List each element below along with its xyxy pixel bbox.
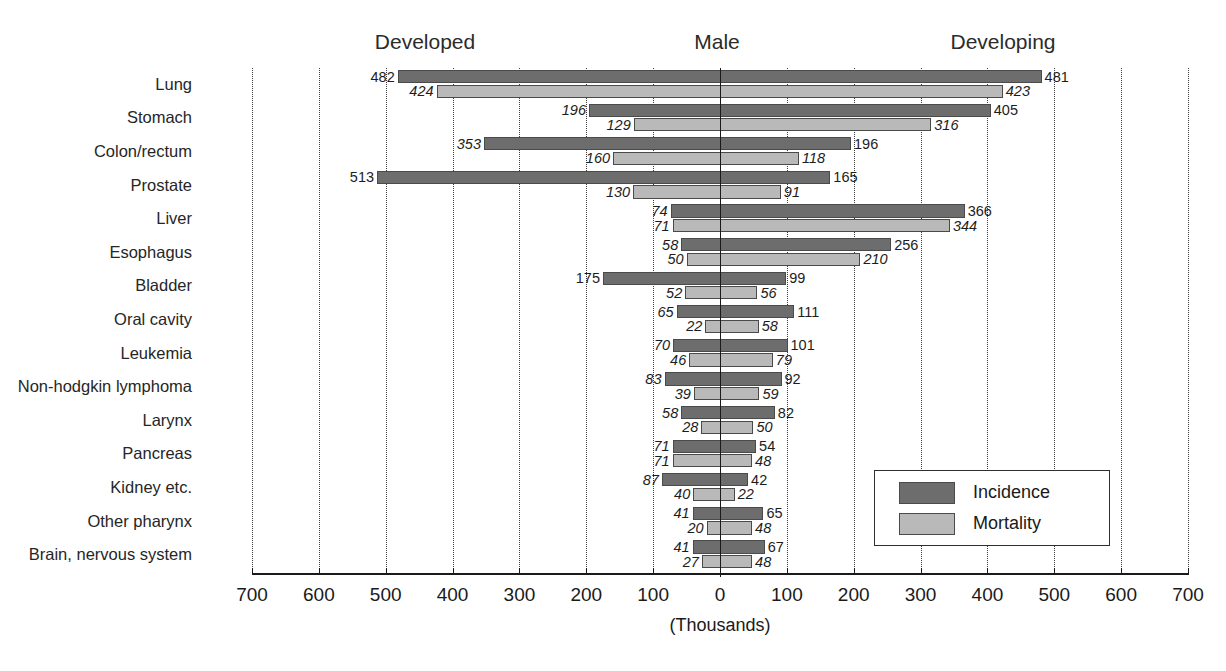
x-axis-tick-label: 300 [504,584,536,606]
value-developing-mortality: 58 [762,318,778,334]
value-developing-incidence: 366 [968,203,992,219]
bar-incidence [673,440,757,453]
value-developing-incidence: 92 [785,371,801,387]
value-developing-incidence: 256 [894,237,918,253]
bar-mortality [707,521,752,534]
category-label-larynx: Larynx [142,410,192,429]
bar-mortality [634,118,932,131]
x-axis-tick-label: 0 [715,584,726,606]
legend-swatch-mortality [899,513,955,535]
value-developing-incidence: 111 [797,304,819,320]
bar-incidence [377,171,830,184]
bar-incidence [681,406,775,419]
category-label-bladder: Bladder [135,276,192,295]
value-developed-mortality: 40 [674,486,690,502]
value-developing-mortality: 344 [953,218,977,234]
value-developed-incidence: 175 [576,270,600,286]
value-developing-incidence: 196 [854,136,878,152]
value-developing-mortality: 56 [760,285,776,301]
value-developing-incidence: 67 [768,539,784,555]
x-axis-tick [987,568,988,575]
legend-swatch-incidence [899,482,955,504]
value-developing-mortality: 48 [755,520,771,536]
category-label-esophagus: Esophagus [109,242,192,261]
x-axis-tick-label: 600 [1105,584,1137,606]
category-label-pancreas: Pancreas [122,444,192,463]
x-axis-tick [1121,568,1122,575]
x-axis-tick [720,568,721,575]
value-developed-incidence: 482 [371,69,395,85]
value-developing-incidence: 54 [759,438,775,454]
x-axis-tick [787,568,788,575]
value-developing-mortality: 91 [784,184,800,200]
legend-label-mortality: Mortality [973,513,1041,534]
value-developed-mortality: 20 [687,520,703,536]
value-developed-mortality: 28 [682,419,698,435]
category-label-stomach: Stomach [127,108,192,127]
bar-incidence [662,473,748,486]
x-axis-tick [453,568,454,575]
x-axis-tick-label: 200 [838,584,870,606]
x-axis-tick-label: 300 [905,584,937,606]
bar-mortality [689,353,773,366]
bar-mortality [673,454,753,467]
value-developed-incidence: 58 [662,405,678,421]
value-developed-mortality: 71 [653,218,669,234]
x-axis-tick-label: 500 [370,584,402,606]
category-label-prostate: Prostate [131,175,192,194]
zero-axis-line [720,68,721,577]
value-developing-mortality: 79 [776,352,792,368]
bar-incidence [693,507,764,520]
bar-incidence [681,238,891,251]
x-axis-tick [519,568,520,575]
x-axis: 7006005004003002001000100200300400500600… [252,573,1188,575]
value-developing-mortality: 22 [738,486,754,502]
value-developing-mortality: 50 [756,419,772,435]
x-axis-tick [1054,568,1055,575]
chart-legend: Incidence Mortality [874,470,1110,546]
category-label-other-pharynx: Other pharynx [87,511,192,530]
bar-mortality [693,488,734,501]
x-axis-tick [653,568,654,575]
value-developed-incidence: 70 [654,337,670,353]
bar-incidence [673,339,787,352]
value-developing-incidence: 481 [1045,69,1069,85]
x-axis-tick-label: 100 [771,584,803,606]
value-developing-mortality: 316 [934,117,958,133]
value-developing-incidence: 99 [789,270,805,286]
x-axis-tick [386,568,387,575]
x-axis-tick-label: 600 [303,584,335,606]
value-developed-mortality: 27 [683,554,699,570]
value-developed-mortality: 71 [653,453,669,469]
right-region-heading: Developing [950,30,1055,54]
value-developing-incidence: 165 [833,169,857,185]
bar-incidence [677,305,795,318]
bar-mortality [694,387,760,400]
value-developed-incidence: 41 [673,539,689,555]
value-developed-incidence: 41 [673,505,689,521]
bar-mortality [702,555,752,568]
x-axis-tick-label: 700 [236,584,268,606]
bar-mortality [673,219,950,232]
category-label-colon-rectum: Colon/rectum [94,142,192,161]
x-axis-tick-label: 400 [972,584,1004,606]
bar-mortality [701,421,753,434]
category-label-oral-cavity: Oral cavity [114,310,192,329]
chart-canvas: Developed Male Developing LungStomachCol… [0,0,1226,671]
x-axis-tick [252,568,253,575]
value-developed-mortality: 130 [606,184,630,200]
bar-mortality [685,286,757,299]
category-label-brain-nervous-system: Brain, nervous system [29,545,192,564]
value-developing-mortality: 59 [762,386,778,402]
bar-incidence [603,272,786,285]
value-developed-incidence: 196 [562,102,586,118]
x-axis-tick [921,568,922,575]
x-axis-tick [319,568,320,575]
x-axis-tick-label: 100 [637,584,669,606]
bar-mortality [687,253,861,266]
value-developing-incidence: 65 [766,505,782,521]
value-developing-mortality: 118 [802,150,825,166]
category-label-lung: Lung [155,74,192,93]
bar-incidence [484,137,851,150]
value-developing-mortality: 48 [755,453,771,469]
